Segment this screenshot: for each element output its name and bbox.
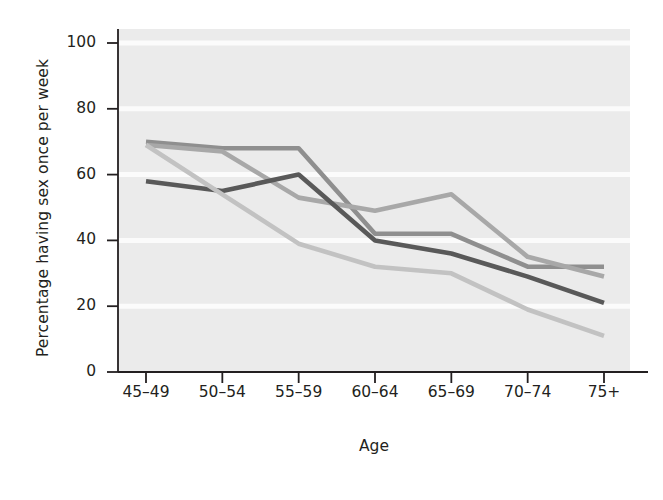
chart-figure: Percentage having sex once per week 0204… xyxy=(0,0,663,500)
x-axis-tick-label: 50–54 xyxy=(199,385,246,401)
y-axis-ticks xyxy=(107,43,118,372)
x-axis-tick-label: 65–69 xyxy=(428,385,475,401)
x-axis-tick-label: 55–59 xyxy=(275,385,322,401)
x-axis-tick-labels: 45–4950–5455–5960–6465–6970–7475+ xyxy=(0,385,663,413)
x-axis-tick-label: 70–74 xyxy=(504,385,551,401)
plot-area xyxy=(0,0,663,500)
x-axis-title: Age xyxy=(118,437,630,455)
x-axis-tick-label: 75+ xyxy=(588,385,621,401)
x-axis-tick-label: 45–49 xyxy=(122,385,169,401)
x-axis-tick-label: 60–64 xyxy=(351,385,398,401)
x-axis-ticks xyxy=(146,372,604,383)
